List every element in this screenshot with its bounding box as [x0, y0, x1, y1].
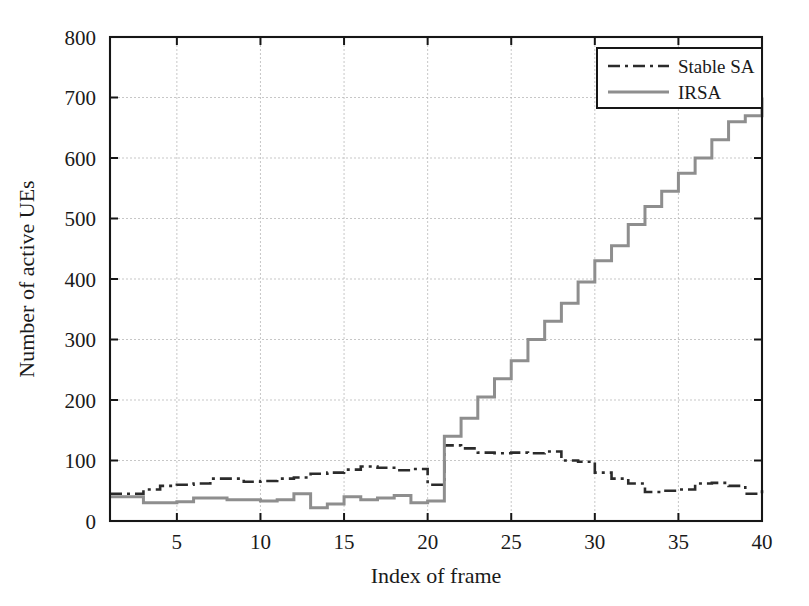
- x-tick-label: 15: [334, 530, 355, 554]
- legend-label-stable-sa: Stable SA: [678, 56, 755, 77]
- series-line-irsa: [110, 98, 762, 508]
- x-tick-label: 10: [250, 530, 271, 554]
- chart-figure: 0100200300400500600700800510152025303540…: [0, 0, 809, 606]
- y-axis-label: Number of active UEs: [14, 180, 39, 377]
- data-series-layer: [110, 98, 762, 508]
- x-tick-label: 30: [584, 530, 605, 554]
- x-tick-label: 5: [172, 530, 183, 554]
- y-tick-label: 200: [65, 389, 97, 413]
- x-tick-label: 25: [501, 530, 522, 554]
- y-tick-label: 100: [65, 449, 97, 473]
- line-chart: 0100200300400500600700800510152025303540…: [0, 0, 809, 606]
- chart-legend: Stable SAIRSA: [597, 48, 762, 108]
- x-tick-label: 40: [752, 530, 773, 554]
- y-tick-label: 300: [65, 328, 97, 352]
- x-axis-label: Index of frame: [371, 563, 502, 588]
- grid-lines: [110, 37, 762, 521]
- y-tick-label: 500: [65, 207, 97, 231]
- series-line-stable-sa: [110, 445, 762, 493]
- y-tick-label: 700: [65, 86, 97, 110]
- x-tick-label: 20: [417, 530, 438, 554]
- y-tick-label: 600: [65, 147, 97, 171]
- x-tick-label: 35: [668, 530, 689, 554]
- y-tick-label: 0: [86, 510, 97, 534]
- y-tick-label: 400: [65, 268, 97, 292]
- y-tick-label: 800: [65, 26, 97, 50]
- legend-label-irsa: IRSA: [678, 82, 722, 103]
